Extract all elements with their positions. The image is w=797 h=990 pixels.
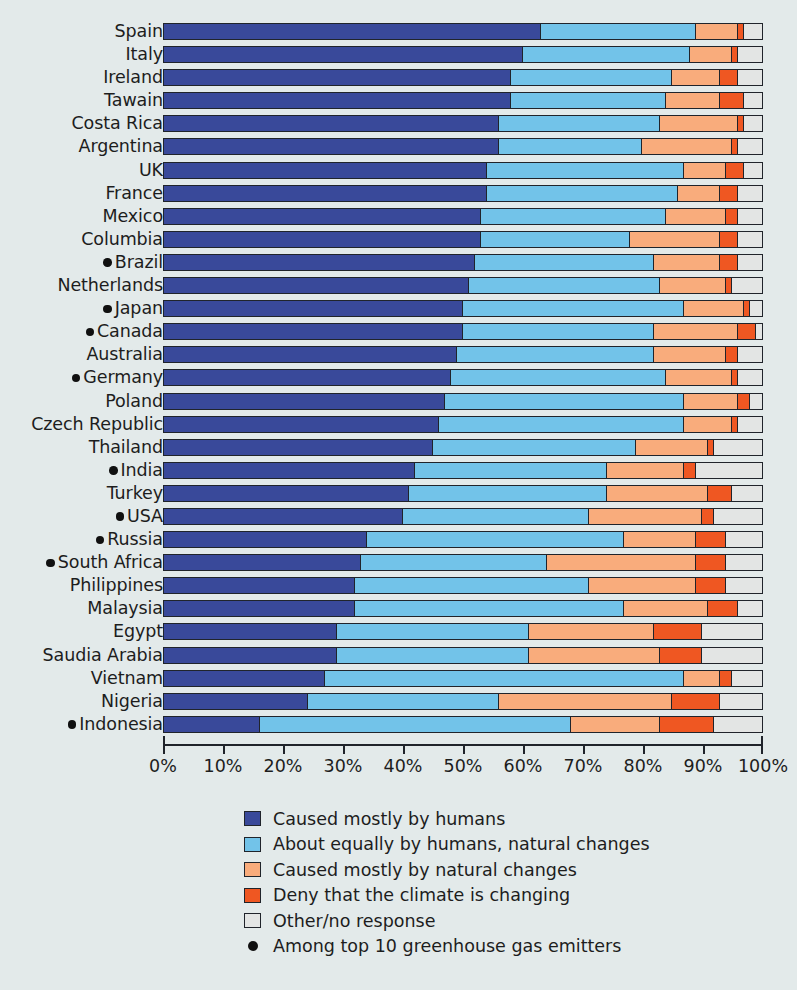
x-tick-100 [761, 745, 763, 754]
stacked-bar [163, 254, 763, 271]
stacked-bar [163, 462, 763, 479]
row-label-saudia-arabia: Saudia Arabia [3, 646, 163, 665]
bar-segment-0 [164, 370, 451, 385]
chart-row: Netherlands [0, 276, 797, 299]
stacked-bar [163, 231, 763, 248]
chart-row: France [0, 184, 797, 207]
row-label-nigeria: Nigeria [3, 692, 163, 711]
chart-row: South Africa [0, 553, 797, 576]
bar-segment-0 [164, 440, 433, 455]
bar-segment-1 [355, 601, 624, 616]
x-tick-label-60: 60% [504, 756, 543, 776]
bar-segment-1 [487, 163, 684, 178]
bar-segment-3 [708, 486, 732, 501]
bar-segment-4 [720, 694, 762, 709]
row-label-text: UK [139, 160, 163, 180]
bar-segment-4 [726, 578, 762, 593]
legend-item[interactable]: Among top 10 greenhouse gas emitters [244, 934, 650, 960]
x-tick-30 [343, 745, 345, 754]
bar-segment-2 [589, 578, 697, 593]
stacked-bar [163, 670, 763, 687]
stacked-bar [163, 647, 763, 664]
bar-segment-4 [738, 370, 762, 385]
row-label-brazil: Brazil [3, 253, 163, 272]
row-label-text: India [121, 460, 163, 480]
bar-segment-2 [666, 370, 732, 385]
bar-segment-1 [355, 578, 588, 593]
x-tick-label-70: 70% [564, 756, 603, 776]
row-label-france: France [3, 184, 163, 203]
bar-segment-0 [164, 278, 469, 293]
chart-row: Tawain [0, 91, 797, 114]
bar-segment-0 [164, 417, 439, 432]
legend-item[interactable]: Other/no response [244, 908, 650, 934]
legend-item[interactable]: Deny that the climate is changing [244, 883, 650, 909]
x-tick-label-0: 0% [149, 756, 177, 776]
bar-segment-0 [164, 463, 415, 478]
x-axis-left-cap [163, 736, 165, 745]
legend-swatch-s3 [244, 888, 261, 903]
row-label-text: Nigeria [101, 691, 163, 711]
row-label-text: Czech Republic [31, 414, 163, 434]
bar-segment-0 [164, 163, 487, 178]
row-label-text: Saudia Arabia [43, 645, 163, 665]
bar-segment-4 [750, 301, 762, 316]
stacked-bar [163, 69, 763, 86]
stacked-bar [163, 346, 763, 363]
bar-segment-2 [684, 671, 720, 686]
bar-segment-3 [720, 186, 738, 201]
row-label-text: Germany [83, 367, 163, 387]
bar-segment-0 [164, 70, 511, 85]
bar-segment-3 [696, 578, 726, 593]
bar-segment-3 [720, 671, 732, 686]
bar-segment-0 [164, 301, 463, 316]
bar-segment-4 [738, 601, 762, 616]
chart-row: Thailand [0, 438, 797, 461]
row-label-argentina: Argentina [3, 137, 163, 156]
bar-segment-3 [702, 509, 714, 524]
stacked-bar [163, 531, 763, 548]
chart-row: Japan [0, 299, 797, 322]
row-label-text: Philippines [70, 575, 163, 595]
legend-item[interactable]: Caused mostly by natural changes [244, 857, 650, 883]
legend-label: Other/no response [273, 911, 435, 931]
stacked-bar [163, 185, 763, 202]
bar-segment-0 [164, 486, 409, 501]
row-label-text: Italy [126, 44, 163, 64]
bar-segment-0 [164, 209, 481, 224]
bar-segment-2 [547, 555, 697, 570]
row-label-text: Columbia [81, 229, 163, 249]
bar-segment-4 [744, 163, 762, 178]
row-label-text: France [105, 183, 163, 203]
chart-row: Costa Rica [0, 114, 797, 137]
bar-segment-4 [738, 255, 762, 270]
bar-segment-2 [624, 532, 696, 547]
stacked-bar [163, 577, 763, 594]
bar-segment-1 [475, 255, 654, 270]
chart-row: Mexico [0, 207, 797, 230]
bar-segment-1 [451, 370, 666, 385]
legend-item[interactable]: Caused mostly by humans [244, 806, 650, 832]
row-label-australia: Australia [3, 345, 163, 364]
row-label-vietnam: Vietnam [3, 669, 163, 688]
x-tick-label-20: 20% [264, 756, 303, 776]
row-label-text: Poland [105, 391, 163, 411]
chart-row: Brazil [0, 253, 797, 276]
legend-label: Deny that the climate is changing [273, 885, 570, 905]
top-emitter-dot-icon [96, 536, 105, 545]
bar-segment-1 [367, 532, 624, 547]
bar-segment-1 [487, 186, 678, 201]
legend-item[interactable]: About equally by humans, natural changes [244, 832, 650, 858]
bar-segment-0 [164, 532, 367, 547]
row-label-indonesia: Indonesia [3, 715, 163, 734]
x-tick-label-80: 80% [624, 756, 663, 776]
bar-segment-2 [684, 417, 732, 432]
bar-segment-1 [541, 24, 696, 39]
bar-segment-1 [481, 232, 631, 247]
stacked-bar [163, 600, 763, 617]
row-label-text: Netherlands [57, 275, 163, 295]
bar-segment-2 [696, 24, 738, 39]
bar-segment-2 [499, 694, 672, 709]
bar-segment-0 [164, 648, 337, 663]
stacked-bar [163, 115, 763, 132]
